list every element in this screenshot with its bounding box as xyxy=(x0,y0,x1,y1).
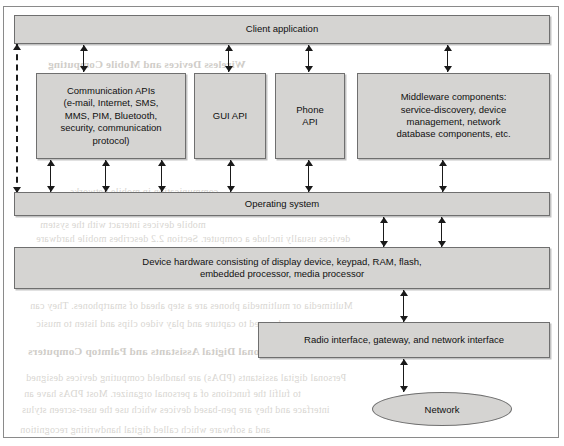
node-operating-system: Operating system xyxy=(14,192,550,216)
connector-communication-apis-to-operating-system xyxy=(46,160,55,192)
arrowhead-down-icon xyxy=(80,66,88,72)
node-operating-system-label: Operating system xyxy=(15,198,549,210)
arrowhead-down-icon xyxy=(225,66,233,72)
connector-client-to-communication-apis xyxy=(79,45,88,72)
node-device-hardware-label: Device hardware consisting of display de… xyxy=(15,256,549,281)
connector-client-to-phone-api xyxy=(304,45,313,72)
arrowhead-up-icon xyxy=(444,45,452,51)
node-communication-apis: Communication APIs (e-mail, Internet, SM… xyxy=(36,73,186,159)
arrowhead-up-icon xyxy=(439,160,447,166)
connector-client-to-operating-system-dashed xyxy=(12,44,21,193)
node-communication-apis-label: Communication APIs (e-mail, Internet, SM… xyxy=(37,85,185,147)
node-gui-api-label: GUI API xyxy=(195,110,265,122)
connector-radio-interface-to-network xyxy=(399,359,408,392)
node-middleware-components-label: Middleware components: service-discovery… xyxy=(358,91,549,141)
node-device-hardware: Device hardware consisting of display de… xyxy=(14,247,550,289)
node-phone-api-label: Phone API xyxy=(276,104,344,129)
node-client-application: Client application xyxy=(14,15,550,44)
connector-gui-api-to-operating-system xyxy=(226,160,235,192)
arrowhead-up-icon xyxy=(225,45,233,51)
arrowhead-up-icon xyxy=(305,45,313,51)
architecture-diagram-figure: Wireless Devices and Mobile Computing co… xyxy=(0,0,564,446)
node-radio-interface-label: Radio interface, gateway, and network in… xyxy=(259,334,549,346)
node-client-application-label: Client application xyxy=(15,23,549,35)
arrowhead-up-icon xyxy=(80,45,88,51)
arrowhead-up-icon xyxy=(47,160,55,166)
arrowhead-up-icon xyxy=(158,160,166,166)
connector-operating-system-to-device-hardware xyxy=(379,217,388,247)
node-radio-interface: Radio interface, gateway, and network in… xyxy=(258,322,550,358)
arrowhead-up-icon xyxy=(13,44,21,50)
node-network-label: Network xyxy=(425,404,460,415)
connector-device-hardware-to-radio-interface xyxy=(399,290,408,322)
connector-communication-apis-to-operating-system xyxy=(101,160,110,192)
connector-communication-apis-to-operating-system xyxy=(157,160,166,192)
node-gui-api: GUI API xyxy=(194,73,266,159)
node-network: Network xyxy=(372,392,512,426)
arrowhead-down-icon xyxy=(400,386,408,392)
arrowhead-up-icon xyxy=(400,290,408,296)
arrowhead-up-icon xyxy=(227,160,235,166)
connector-operating-system-to-device-hardware xyxy=(437,217,446,247)
connector-client-to-middleware xyxy=(443,45,452,72)
arrowhead-down-icon xyxy=(444,66,452,72)
connector-phone-api-to-operating-system xyxy=(304,160,313,192)
dashed-shaft xyxy=(16,44,18,193)
arrowhead-up-icon xyxy=(400,359,408,365)
arrowhead-up-icon xyxy=(102,160,110,166)
arrowhead-up-icon xyxy=(305,160,313,166)
arrowhead-up-icon xyxy=(380,217,388,223)
connector-middleware-to-operating-system xyxy=(438,160,447,192)
arrowhead-down-icon xyxy=(305,66,313,72)
node-middleware-components: Middleware components: service-discovery… xyxy=(357,73,550,159)
connector-client-to-gui-api xyxy=(224,45,233,72)
arrowhead-up-icon xyxy=(438,217,446,223)
node-phone-api: Phone API xyxy=(275,73,345,159)
